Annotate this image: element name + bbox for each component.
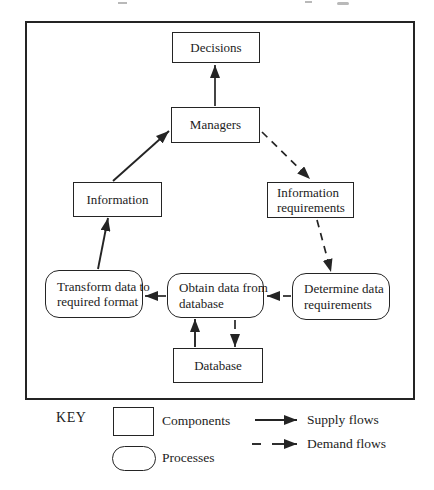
node-decisions-label: Decisions xyxy=(190,40,241,56)
node-determine-data: Determine data requirements xyxy=(292,273,390,320)
node-database-label: Database xyxy=(194,358,242,374)
key-component-symbol xyxy=(113,407,154,436)
node-determine-data-label-line2: requirements xyxy=(304,297,372,313)
supply-flow-information-to-managers xyxy=(113,131,169,181)
node-obtain-data: Obtain data from database xyxy=(167,273,264,318)
node-obtain-data-label-line1: Obtain data from xyxy=(179,280,268,296)
figure-canvas: Decisions Managers Information Informati… xyxy=(0,0,434,490)
node-information-label: Information xyxy=(86,192,148,208)
node-transform-data-label-line2: required format xyxy=(57,294,138,310)
node-transform-data: Transform data to required format xyxy=(45,270,143,318)
node-information-requirements-label-line2: requirements xyxy=(277,200,345,215)
key-processes-label: Processes xyxy=(162,450,215,466)
demand-flow-information-requirements-to-determine xyxy=(317,220,331,272)
node-decisions: Decisions xyxy=(172,32,260,63)
node-information: Information xyxy=(73,182,162,217)
key-demand-flows-label: Demand flows xyxy=(307,436,386,452)
node-information-requirements-label-line1: Information xyxy=(277,185,339,200)
node-transform-data-label-line1: Transform data to xyxy=(57,279,150,295)
node-database: Database xyxy=(173,348,263,383)
node-information-requirements: Information requirements xyxy=(267,182,354,218)
key-process-symbol xyxy=(112,446,156,471)
node-managers-label: Managers xyxy=(190,117,241,133)
key-title: KEY xyxy=(56,410,87,426)
node-managers: Managers xyxy=(171,107,260,143)
node-determine-data-label-line1: Determine data xyxy=(304,281,384,297)
key-components-label: Components xyxy=(162,413,230,429)
node-obtain-data-label-line2: database xyxy=(179,296,224,312)
demand-flow-managers-to-information-requirements xyxy=(262,132,310,179)
key-supply-flows-label: Supply flows xyxy=(307,412,379,428)
supply-flow-transform-to-information xyxy=(98,218,108,269)
